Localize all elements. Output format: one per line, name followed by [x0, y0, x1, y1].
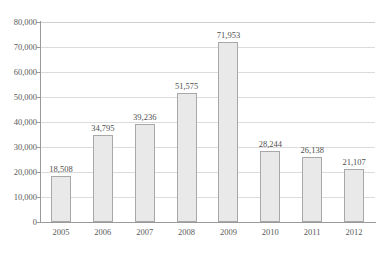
y-axis-tick-label: 70,000 — [1, 43, 37, 52]
x-axis-tick-label: 2005 — [40, 227, 82, 237]
y-axis-tick-label: 10,000 — [1, 193, 37, 202]
x-axis-tick-label: 2006 — [82, 227, 124, 237]
y-axis-tick-label: 80,000 — [1, 18, 37, 27]
x-axis-tick-label: 2009 — [208, 227, 250, 237]
y-axis-tick-label: 50,000 — [1, 93, 37, 102]
x-axis-tick-label: 2008 — [166, 227, 208, 237]
x-axis-tick-label: 2010 — [249, 227, 291, 237]
bar-chart-figure: 図1 ［タイトル一部欠損］（2005〜2012） 80,00070,00060,… — [0, 0, 386, 255]
x-axis-tick-label: 2011 — [291, 227, 333, 237]
x-axis-tick-label: 2012 — [333, 227, 375, 237]
y-axis-tick-label: 60,000 — [1, 68, 37, 77]
y-axis-tick-label: 30,000 — [1, 143, 37, 152]
y-axis-tick-label: 20,000 — [1, 168, 37, 177]
y-axis-tick-label: 0 — [1, 218, 37, 227]
y-axis-tick-label: 40,000 — [1, 118, 37, 127]
x-axis-tick-labels: 20052006200720082009201020112012 — [40, 0, 375, 255]
y-axis-tick-labels: 80,00070,00060,00050,00040,00030,00020,0… — [0, 0, 37, 255]
x-axis-tick-label: 2007 — [124, 227, 166, 237]
